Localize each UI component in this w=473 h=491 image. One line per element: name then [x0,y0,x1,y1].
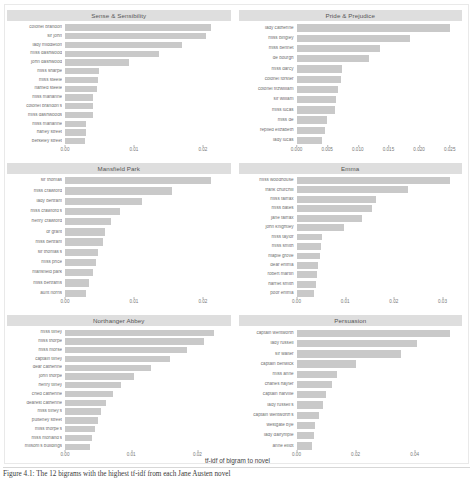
bar-track [65,268,231,278]
category-label: miss price [7,260,62,265]
category-label: captain tilney [7,357,62,362]
bar-track [297,349,463,359]
bar-row [297,289,463,298]
category-label-row: colonel fitzwilliam [239,84,294,94]
category-label: colonel forster [239,77,294,82]
facet-northanger-abbey: Northanger Abbey miss tilneymiss thorpem… [5,310,237,463]
category-label: sir thomas [7,178,62,183]
bar-track [297,23,463,33]
bar [65,400,106,406]
bar-track [297,43,463,53]
facet-pride-and-prejudice: Pride & Prejudice lady catherinemiss bin… [237,5,469,158]
bar-track [65,381,231,390]
bar-row [65,119,231,128]
bar-row [297,176,463,185]
category-label: colonel brandon's [7,104,62,109]
bar-row [65,247,231,257]
category-label-row: miss sharpe [7,67,62,76]
facet-title: Pride & Prejudice [325,12,375,19]
bar-track [297,279,463,288]
bar [65,279,89,286]
bar-track [65,434,231,443]
category-label-row: miss bingley [239,33,294,43]
bar-row [297,74,463,84]
bar-row [297,43,463,53]
axis-tick-label: 0.02 [198,147,207,152]
bar-row [65,372,231,381]
bar [297,243,321,250]
category-label-row: captain harville [239,390,294,400]
category-label: miss anne [239,372,294,377]
category-label-row: miss de [239,115,294,125]
bar-track [297,105,463,115]
category-label: westgate bye [239,423,294,428]
bar-track [297,223,463,232]
axis-tick-label: 0.00 [61,299,70,304]
category-label: henry tilney [7,383,62,388]
category-label: miss lucas [239,108,294,113]
facet-body: colonel brandonsir johnlady middletonmis… [7,23,231,146]
bar-row [65,67,231,76]
category-label-row: lady lucas [239,135,294,145]
bar [297,24,450,31]
bar-track [297,441,463,451]
bar-row [65,111,231,120]
bars [65,328,231,451]
bar [65,177,211,184]
category-label: anne elliot [239,444,294,449]
bar-row [65,237,231,247]
facet-persuasion: Persuasion captain wentworthlady russell… [237,310,469,463]
bar-row [297,95,463,105]
bar-row [297,33,463,43]
category-label: replied elizabeth [239,128,294,133]
category-label: john knightley [239,225,294,230]
bar [65,382,121,388]
bar-track [65,346,231,355]
bar-row [297,339,463,349]
bar-track [65,76,231,85]
bar-row [297,400,463,410]
category-label: miss morland's [7,436,62,441]
bar [65,269,93,276]
category-label-row: aunt norris [7,288,62,298]
category-label: robert martin [239,272,294,277]
category-label-row: miss anne [239,369,294,379]
bar-row [297,135,463,145]
bar-track [65,128,231,137]
category-label-row: replied elizabeth [239,125,294,135]
bar-track [297,359,463,369]
category-label: captain harville [239,392,294,397]
bar-row [65,137,231,146]
axis-tick-label: 0.000 [291,147,303,152]
bar-track [65,355,231,364]
category-label-row: lady russell [239,339,294,349]
category-label-row: dear emma [239,261,294,270]
bar-row [65,32,231,41]
axis-ticks: 0.000.010.02 [65,146,231,158]
bar [65,426,95,432]
bar-row [297,242,463,251]
category-label: captain wentworth's [239,413,294,418]
figure-caption: Figure 4.1: The 12 bigrams with the high… [3,470,470,490]
axis-ticks: 0.000.010.020.03 [297,298,463,310]
category-label-row: lady middleton [7,41,62,50]
bar-row [65,93,231,102]
bar [297,262,319,269]
category-label: pulteney street [7,418,62,423]
bar-track [65,41,231,50]
bar-track [65,363,231,372]
axis-spacer [239,298,297,310]
category-label: lady bertram [7,199,62,204]
category-label-row: dearest catherine [7,398,62,407]
category-label: miss dashwood [7,51,62,56]
category-label: jane fairfax [239,216,294,221]
bar [297,290,315,297]
bar-row [65,23,231,32]
bar-track [65,425,231,434]
category-label-row: sir walter [239,349,294,359]
bar [65,51,159,57]
category-label: sir thomas's [7,250,62,255]
bar-row [65,346,231,355]
bar-row [65,407,231,416]
category-label: miss taylor [239,235,294,240]
